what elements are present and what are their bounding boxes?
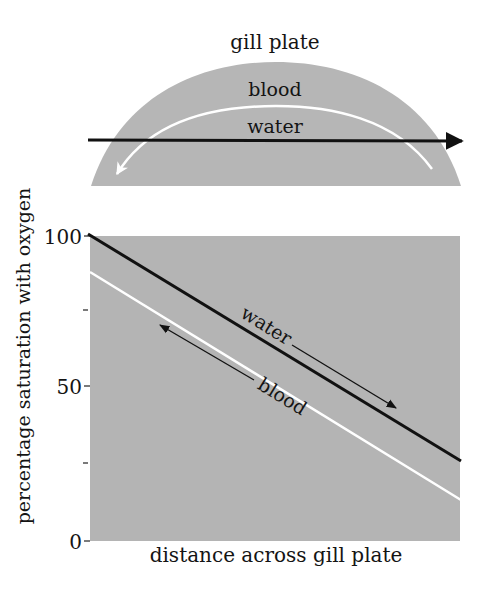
y-axis-ticks (83, 236, 90, 541)
water-label-top: water (247, 115, 303, 137)
gill-plate-diagram: gill plate blood water (88, 30, 462, 186)
y-tick-100: 100 (44, 225, 82, 249)
y-axis-label: percentage saturation with oxygen (12, 188, 34, 525)
blood-label-top: blood (248, 78, 301, 100)
saturation-chart: percentage saturation with oxygen 100 50… (12, 188, 461, 567)
y-tick-50: 50 (57, 375, 82, 399)
gill-plate-title: gill plate (230, 30, 319, 54)
gill-countercurrent-figure: gill plate blood water percentage satura… (0, 0, 484, 603)
y-tick-0: 0 (69, 530, 82, 554)
water-flow-arrow-icon (88, 140, 462, 141)
x-axis-label: distance across gill plate (150, 543, 403, 567)
